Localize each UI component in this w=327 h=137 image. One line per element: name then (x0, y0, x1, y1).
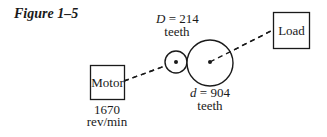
large-gear-center-dot (208, 60, 212, 64)
motor-speed-unit: rev/min (82, 115, 132, 128)
load-label: Load (273, 24, 310, 37)
small-gear-unit: teeth (160, 25, 194, 38)
motor-label: Motor (90, 76, 125, 89)
large-gear-unit: teeth (193, 99, 227, 112)
large-gear-symbol: d (190, 85, 197, 100)
small-gear-center-dot (174, 60, 178, 64)
motor-shaft-line-front (124, 66, 165, 81)
